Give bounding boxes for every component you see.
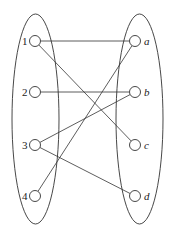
bipartite-graph: 1234abcd bbox=[0, 0, 172, 236]
node-label-d: d bbox=[144, 190, 150, 202]
node-2 bbox=[30, 87, 41, 98]
node-4 bbox=[30, 191, 41, 202]
node-b bbox=[130, 87, 141, 98]
node-label-a: a bbox=[144, 35, 150, 47]
node-c bbox=[130, 140, 141, 151]
node-label-4: 4 bbox=[22, 190, 28, 202]
node-label-3: 3 bbox=[22, 139, 28, 151]
node-a bbox=[130, 36, 141, 47]
edge-4-a bbox=[38, 46, 132, 192]
node-label-2: 2 bbox=[22, 86, 28, 98]
node-label-b: b bbox=[144, 86, 150, 98]
node-3 bbox=[30, 140, 41, 151]
edges bbox=[38, 41, 132, 194]
edge-1-c bbox=[39, 45, 131, 141]
node-1 bbox=[30, 36, 41, 47]
node-label-c: c bbox=[144, 139, 149, 151]
nodes: 1234abcd bbox=[22, 35, 150, 202]
node-d bbox=[130, 191, 141, 202]
node-label-1: 1 bbox=[22, 35, 28, 47]
